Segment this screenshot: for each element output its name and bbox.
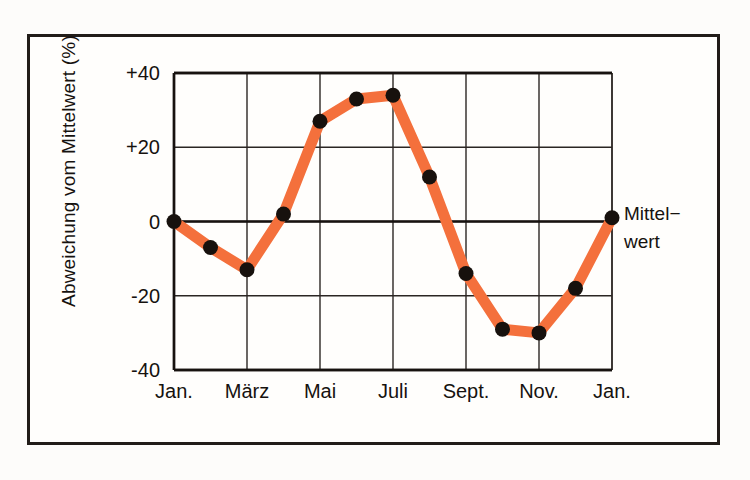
y-axis-tick-labels: +40+200-20-40 <box>126 62 160 381</box>
y-tick-label-40: +40 <box>126 62 160 84</box>
data-point-10 <box>532 325 547 340</box>
y-tick-label--20: -20 <box>131 285 160 307</box>
x-tick-label-0: Jan. <box>155 380 193 402</box>
x-tick-label-2: Mai <box>304 380 336 402</box>
data-point-6 <box>386 88 401 103</box>
data-point-2 <box>240 262 255 277</box>
data-point-5 <box>349 91 364 106</box>
x-tick-label-6: Jan. <box>593 380 631 402</box>
y-tick-label-0: 0 <box>149 211 160 233</box>
x-tick-label-4: Sept. <box>443 380 490 402</box>
annotation-layer: Mittel−wert <box>623 203 681 252</box>
y-tick-label--40: -40 <box>131 359 160 381</box>
data-point-8 <box>459 266 474 281</box>
data-point-3 <box>276 207 291 222</box>
y-tick-label-20: +20 <box>126 136 160 158</box>
data-point-9 <box>495 322 510 337</box>
x-axis-tick-labels: Jan.MärzMaiJuliSept.Nov.Jan. <box>155 380 631 402</box>
data-point-12 <box>605 210 620 225</box>
mittelwert-label-line1: Mittel− <box>624 203 681 224</box>
figure-container: Abweichung vom Mittelwert (%) +40+200-20… <box>0 0 750 480</box>
data-point-11 <box>568 281 583 296</box>
x-tick-label-1: März <box>225 380 269 402</box>
x-tick-label-3: Juli <box>378 380 408 402</box>
mittelwert-label-line2: wert <box>623 231 661 252</box>
data-point-0 <box>167 214 182 229</box>
data-point-4 <box>313 114 328 129</box>
data-point-1 <box>203 240 218 255</box>
data-point-7 <box>422 169 437 184</box>
line-chart: +40+200-20-40 Jan.MärzMaiJuliSept.Nov.Ja… <box>0 0 750 480</box>
x-tick-label-5: Nov. <box>519 380 559 402</box>
